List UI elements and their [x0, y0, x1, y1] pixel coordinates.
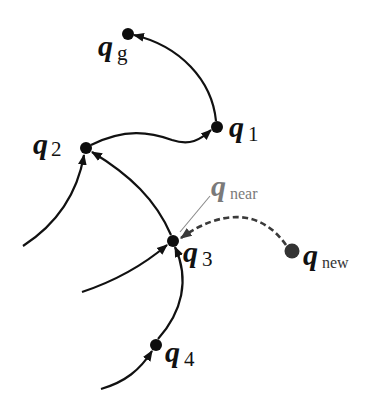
label-qnew: q new: [303, 238, 349, 271]
svg-text:q: q: [211, 169, 226, 202]
svg-text:q: q: [183, 235, 198, 268]
edge-q3-to-q2: [92, 152, 171, 235]
svg-text:4: 4: [184, 347, 195, 371]
svg-text:3: 3: [202, 247, 213, 271]
qnear-leader-line: [180, 196, 210, 232]
label-q2: q 2: [33, 127, 62, 161]
node-q3: [167, 235, 179, 247]
edge-q1-to-qg: [134, 35, 216, 121]
edge-offleft-to-q3: [82, 245, 167, 292]
nodes: [80, 28, 300, 351]
svg-text:2: 2: [51, 137, 62, 161]
svg-text:g: g: [117, 41, 128, 65]
edge-offleft-to-q4: [101, 351, 152, 389]
node-q4: [150, 339, 162, 351]
label-q1: q 1: [229, 110, 259, 146]
rrt-tree-diagram: q g q 1 q 2 q 3 q 4 q new q near: [0, 0, 368, 412]
svg-text:q: q: [165, 335, 180, 368]
node-qnew: [285, 244, 300, 259]
edge-q4-to-q3: [158, 247, 183, 339]
node-q2: [80, 142, 92, 154]
edges: [23, 35, 286, 389]
node-qg: [122, 28, 134, 40]
svg-text:near: near: [230, 185, 258, 202]
edge-offleft-to-q2: [23, 155, 84, 246]
edge-q2-to-q1: [91, 130, 211, 145]
node-q1: [211, 121, 223, 133]
svg-text:1: 1: [248, 122, 259, 146]
svg-text:q: q: [303, 238, 318, 271]
label-q3: q 3: [183, 235, 213, 271]
svg-text:q: q: [98, 29, 113, 62]
label-qnear: q near: [211, 169, 258, 202]
svg-text:q: q: [33, 127, 48, 160]
label-q4: q 4: [165, 335, 195, 371]
labels: q g q 1 q 2 q 3 q 4 q new q near: [33, 29, 349, 371]
svg-text:q: q: [229, 110, 244, 143]
svg-text:new: new: [322, 254, 349, 271]
